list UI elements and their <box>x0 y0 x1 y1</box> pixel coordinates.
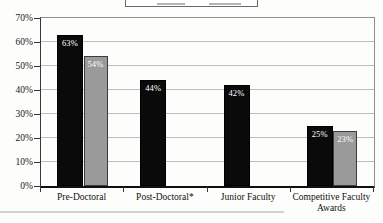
plot-area: 63%44%42%25%54%23% <box>40 17 375 188</box>
x-category-label: Post-Doctoral* <box>117 192 213 203</box>
x-category-label: Pre-Doctoral <box>34 192 130 203</box>
bar-black-series-3: 25% <box>307 126 333 186</box>
y-tick-mark <box>34 66 40 67</box>
bar-gray-series-0: 54% <box>84 56 108 186</box>
y-tick-mark <box>34 114 40 115</box>
bar-gray-series-3: 23% <box>333 131 357 186</box>
x-category-label: Competitive Faculty Awards <box>283 192 379 214</box>
y-tick-mark <box>34 162 40 163</box>
y-tick-label: 40% <box>0 85 33 95</box>
legend-entry-remnant <box>157 3 185 5</box>
bar-value-label: 63% <box>58 38 82 48</box>
y-tick-mark <box>34 138 40 139</box>
y-tick-mark <box>34 42 40 43</box>
bar-black-series-0: 63% <box>57 35 83 186</box>
y-tick-label: 10% <box>0 157 33 167</box>
y-tick-label: 60% <box>0 37 33 47</box>
bar-black-series-2: 42% <box>224 85 250 186</box>
x-category-label: Junior Faculty <box>200 192 296 203</box>
bar-value-label: 44% <box>141 83 165 93</box>
gridline <box>41 41 374 42</box>
bar-value-label: 54% <box>85 59 107 69</box>
y-tick-label: 0% <box>0 181 33 191</box>
bar-value-label: 42% <box>225 88 249 98</box>
y-tick-label: 70% <box>0 13 33 23</box>
bar-chart: 63%44%42%25%54%23% 0%10%20%30%40%50%60%7… <box>0 0 383 223</box>
y-tick-label: 30% <box>0 109 33 119</box>
bar-value-label: 23% <box>334 134 356 144</box>
legend-entry-remnant <box>209 3 241 5</box>
y-tick-label: 20% <box>0 133 33 143</box>
bar-black-series-1: 44% <box>140 80 166 186</box>
y-tick-mark <box>34 90 40 91</box>
y-tick-label: 50% <box>0 61 33 71</box>
bar-value-label: 25% <box>308 129 332 139</box>
legend-box <box>125 0 258 7</box>
scan-artifact-line <box>0 211 284 213</box>
y-tick-mark <box>34 18 40 19</box>
